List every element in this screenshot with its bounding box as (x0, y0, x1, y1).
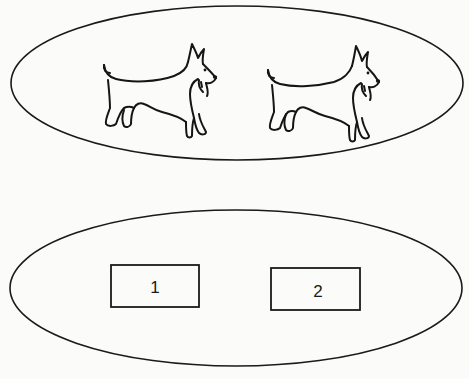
bottom-set: 1 2 (10, 210, 462, 366)
box-2: 2 (271, 268, 360, 310)
box-2-label: 2 (313, 282, 322, 301)
box-1-label: 1 (150, 278, 159, 297)
bottom-ellipse (10, 210, 462, 366)
scottish-terrier-icon (268, 46, 380, 142)
top-ellipse (11, 6, 463, 160)
box-1: 1 (111, 265, 199, 307)
scottish-terrier-icon (104, 44, 217, 138)
top-set (11, 6, 463, 160)
diagram-canvas: 1 2 (0, 0, 469, 379)
